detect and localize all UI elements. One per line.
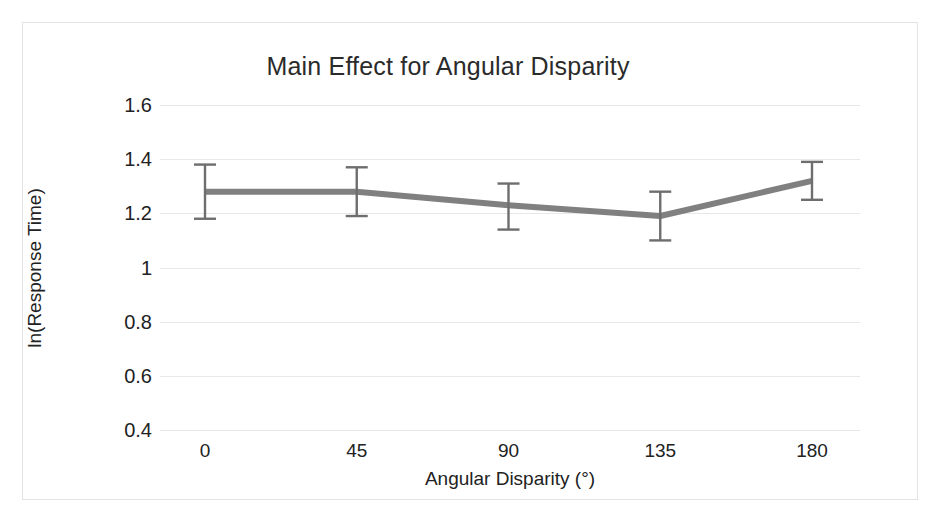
chart-title: Main Effect for Angular Disparity bbox=[0, 52, 918, 81]
series-layer bbox=[160, 105, 860, 430]
y-axis-tick-label: 0.6 bbox=[124, 364, 152, 387]
x-axis-tick-label: 135 bbox=[644, 440, 676, 462]
x-axis-tick-labels: 04590135180 bbox=[160, 440, 860, 466]
x-axis-tick-label: 90 bbox=[498, 440, 519, 462]
y-axis-tick-label: 1.4 bbox=[124, 148, 152, 171]
y-axis-title-label: ln(Response Time) bbox=[24, 188, 46, 347]
plot-area bbox=[160, 105, 860, 430]
y-axis-tick-label: 0.4 bbox=[124, 419, 152, 442]
x-axis-tick-label: 45 bbox=[346, 440, 367, 462]
y-axis-tick-label: 1 bbox=[141, 256, 152, 279]
x-axis-tick-label: 0 bbox=[200, 440, 211, 462]
y-axis-tick-labels: 1.61.41.210.80.60.4 bbox=[60, 105, 152, 430]
y-axis-tick-label: 0.8 bbox=[124, 310, 152, 333]
y-axis-tick-label: 1.6 bbox=[124, 94, 152, 117]
gridline bbox=[160, 430, 860, 431]
y-axis-title: ln(Response Time) bbox=[18, 105, 52, 430]
chart-figure: Main Effect for Angular Disparity ln(Res… bbox=[0, 0, 940, 532]
x-axis-title: Angular Disparity (°) bbox=[160, 468, 860, 490]
x-axis-tick-label: 180 bbox=[796, 440, 828, 462]
y-axis-tick-label: 1.2 bbox=[124, 202, 152, 225]
